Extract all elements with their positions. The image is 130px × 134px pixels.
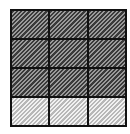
shaded-cell-r1-c1 xyxy=(11,10,49,39)
shaded-cell-r3-c1 xyxy=(11,68,49,97)
shaded-cell-r3-c2 xyxy=(49,68,87,97)
shaded-cell-r1-c2 xyxy=(49,10,87,39)
fraction-grid xyxy=(10,9,127,127)
shaded-cell-r3-c3 xyxy=(88,68,126,97)
shaded-cell-r1-c3 xyxy=(88,10,126,39)
unshaded-cell-r4-c2 xyxy=(49,97,87,126)
unshaded-cell-r4-c1 xyxy=(11,97,49,126)
shaded-cell-r2-c2 xyxy=(49,39,87,68)
shaded-cell-r2-c3 xyxy=(88,39,126,68)
unshaded-cell-r4-c3 xyxy=(88,97,126,126)
shaded-cell-r2-c1 xyxy=(11,39,49,68)
